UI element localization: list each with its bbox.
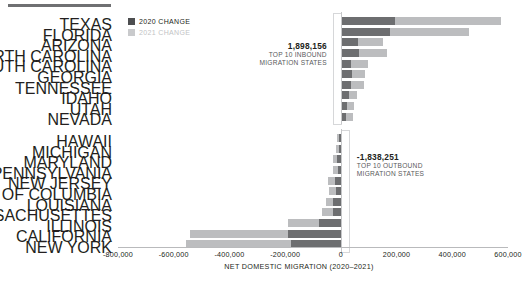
bar-row bbox=[0, 69, 515, 80]
bar-segment-2021 bbox=[352, 70, 365, 78]
bar-row bbox=[0, 16, 515, 27]
zero-line-outbound bbox=[341, 129, 342, 254]
bar-segment-2020 bbox=[341, 49, 359, 57]
bar-segment-2020 bbox=[333, 208, 341, 216]
bar-segment-2020 bbox=[341, 91, 349, 99]
bar-row bbox=[0, 165, 515, 176]
x-axis-line bbox=[118, 247, 508, 248]
bar-segment-2020 bbox=[341, 60, 352, 68]
bar-row bbox=[0, 80, 515, 91]
bar-row bbox=[0, 144, 515, 155]
bar-segment-2021 bbox=[349, 91, 357, 99]
bar-row bbox=[0, 27, 515, 38]
x-tick-label: -200,000 bbox=[270, 250, 300, 259]
x-tick-label: 400,000 bbox=[439, 250, 466, 259]
bar-segment-2020 bbox=[288, 230, 341, 238]
bar-segment-2020 bbox=[341, 81, 352, 89]
bar-row bbox=[0, 175, 515, 186]
bar-row bbox=[0, 58, 515, 69]
bar-segment-2020 bbox=[319, 219, 341, 227]
bar-segment-2021 bbox=[322, 208, 333, 216]
x-tick-label: 600,000 bbox=[494, 250, 521, 259]
bar-segment-2020 bbox=[333, 198, 341, 206]
bar-segment-2021 bbox=[358, 38, 384, 46]
bar-row bbox=[0, 228, 515, 239]
x-tick-label: 200,000 bbox=[383, 250, 410, 259]
bar-row bbox=[0, 101, 515, 112]
outbound-annotation-line1: TOP 10 OUTBOUND bbox=[357, 162, 424, 171]
inbound-total-value: 1,898,156 bbox=[259, 42, 326, 51]
bar-row bbox=[0, 37, 515, 48]
bar-row bbox=[0, 90, 515, 101]
bar-segment-2021 bbox=[359, 49, 387, 57]
bar-row bbox=[0, 154, 515, 165]
zero-line-inbound bbox=[341, 12, 342, 124]
bar-segment-2021 bbox=[328, 177, 335, 185]
inbound-annotation-line2: MIGRATION STATES bbox=[259, 59, 326, 68]
outbound-total-value: -1,838,251 bbox=[357, 153, 424, 162]
x-tick-label: 0 bbox=[339, 250, 343, 259]
bar-segment-2020 bbox=[341, 28, 390, 36]
bar-segment-2021 bbox=[288, 219, 319, 227]
inbound-annotation-line1: TOP 10 INBOUND bbox=[259, 51, 326, 60]
bar-row bbox=[0, 186, 515, 197]
bar-row bbox=[0, 207, 515, 218]
bar-segment-2021 bbox=[346, 113, 352, 121]
inbound-annotation: 1,898,156 TOP 10 INBOUND MIGRATION STATE… bbox=[259, 42, 326, 68]
bar-segment-2021 bbox=[326, 198, 334, 206]
bar-row bbox=[0, 197, 515, 208]
bar-segment-2021 bbox=[351, 60, 368, 68]
bar-segment-2021 bbox=[395, 17, 501, 25]
bar-row bbox=[0, 48, 515, 59]
x-tick-label: -600,000 bbox=[159, 250, 189, 259]
bar-segment-2021 bbox=[351, 81, 363, 89]
bar-segment-2020 bbox=[341, 38, 358, 46]
outbound-bracket bbox=[341, 130, 350, 253]
bar-segment-2021 bbox=[390, 28, 469, 36]
x-tick-label: -800,000 bbox=[103, 250, 133, 259]
bar-segment-2021 bbox=[190, 230, 288, 238]
bar-segment-2021 bbox=[347, 102, 354, 110]
x-axis-label: NET DOMESTIC MIGRATION (2020–2021) bbox=[224, 262, 373, 271]
bar-segment-2020 bbox=[341, 70, 352, 78]
bar-row bbox=[0, 111, 515, 122]
x-tick-label: -400,000 bbox=[214, 250, 244, 259]
bar-row bbox=[0, 133, 515, 144]
inbound-bars bbox=[0, 16, 515, 122]
outbound-bars bbox=[0, 133, 515, 250]
outbound-annotation-line2: MIGRATION STATES bbox=[357, 170, 424, 179]
outbound-annotation: -1,838,251 TOP 10 OUTBOUND MIGRATION STA… bbox=[357, 153, 424, 179]
bar-segment-2020 bbox=[341, 17, 395, 25]
bar-row bbox=[0, 218, 515, 229]
